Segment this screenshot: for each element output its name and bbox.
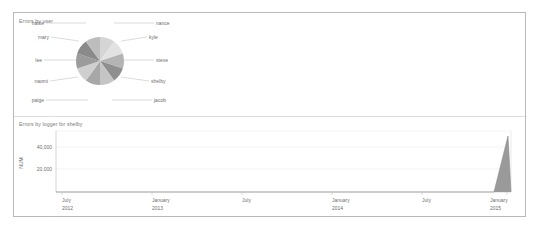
x-tick-year-0: 2012 <box>62 205 73 211</box>
screenshot-root: Errors by user <box>0 0 540 229</box>
line-chart-section: Errors by logger for shelby 40,000 20,00… <box>14 116 525 217</box>
x-tick-year-3: 2014 <box>332 205 343 211</box>
y-axis-label: NUM <box>18 157 24 168</box>
pie-label-kyle: kyle <box>149 34 158 40</box>
line-chart-svg: 40,000 20,000 NUM July Jan <box>14 117 525 217</box>
pie-label-mary: mary <box>38 34 50 40</box>
x-tick-year-5: 2015 <box>490 205 501 211</box>
x-tick-month-2: July <box>242 197 251 203</box>
x-tick-month-0: July <box>62 197 71 203</box>
x-tick-month-3: January <box>332 197 350 203</box>
x-tick-year-1: 2013 <box>152 205 163 211</box>
x-tick-month-5: January <box>490 197 508 203</box>
x-tick-month-4: July <box>422 197 431 203</box>
line-chart-gridlines <box>56 131 511 169</box>
pie-label-steve: steve <box>156 57 168 63</box>
pie-slices <box>76 37 124 85</box>
line-chart-x-ticks <box>62 192 507 195</box>
pie-label-nattie: nattie <box>32 20 44 26</box>
x-tick-month-1: January <box>152 197 170 203</box>
pie-chart-section: Errors by user <box>14 13 525 116</box>
charts-panel: Errors by user <box>13 12 526 217</box>
pie-label-nance: nance <box>156 20 170 26</box>
pie-label-lee: lee <box>35 57 42 63</box>
y-tick-40000: 40,000 <box>37 144 53 150</box>
y-tick-20000: 20,000 <box>37 166 53 172</box>
line-chart-area-series <box>56 136 511 192</box>
pie-chart-area: nattie mary lee naomi paige nance kyle s… <box>14 13 525 116</box>
pie-label-naomi: naomi <box>34 78 48 84</box>
pie-label-shelby: shelby <box>151 78 166 84</box>
pie-label-paige: paige <box>32 97 44 103</box>
pie-chart-svg: nattie mary lee naomi paige nance kyle s… <box>14 13 525 116</box>
pie-label-jacob: jacob <box>153 97 166 103</box>
line-chart-line-series <box>56 136 511 192</box>
